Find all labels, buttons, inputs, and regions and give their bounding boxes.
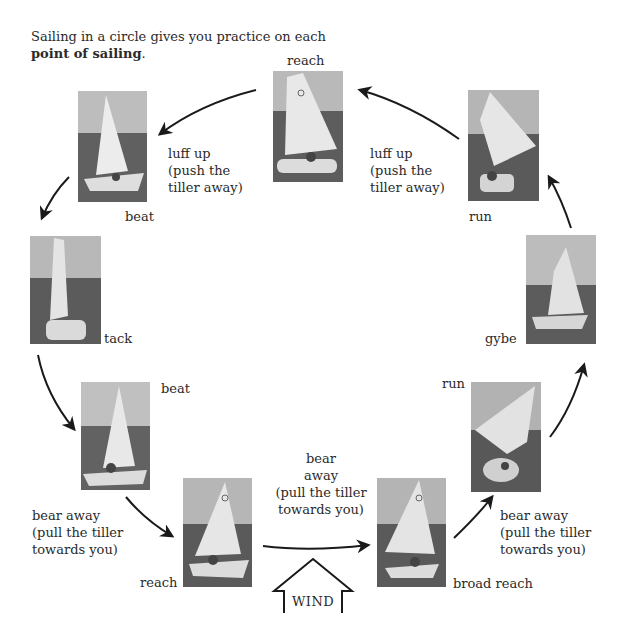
sailboat-icon [81,382,150,490]
sailboat-icon [471,382,541,492]
arrow-reach-to-broad-reach [263,545,368,549]
label-broad-reach: broad reach [453,575,533,592]
note-luff-up-right: luff up (push the tiller away) [370,145,445,196]
label-tack: tack [104,330,132,347]
photo-run-right [471,382,541,492]
label-run-top-right: run [469,208,492,225]
sailboat-icon [78,91,147,202]
note-bear-away-left: bear away (pull the tiller towards you) [32,507,123,558]
sailboat-icon [183,478,252,587]
intro-text-end: . [142,46,146,61]
photo-run-top-right [468,90,539,201]
label-reach-bottom: reach [140,574,177,591]
arrow-run-to-gybe [550,365,584,437]
arrow-beat-to-reach [126,497,172,536]
arrow-gybe-to-run [549,177,571,228]
photo-gybe [526,235,596,344]
sailboat-icon [526,235,596,344]
sailboat-icon [273,71,343,182]
intro-text-regular: Sailing in a circle gives you practice o… [31,29,326,44]
label-gybe: gybe [485,330,517,347]
intro-text: Sailing in a circle gives you practice o… [31,28,331,62]
photo-beat-left [81,382,150,490]
photo-beat-top-left [78,91,147,202]
label-beat-left: beat [161,380,190,397]
label-run-right: run [442,375,465,392]
sailboat-icon [468,90,539,201]
arrow-reach-to-beat [160,90,256,134]
photo-broad-reach [377,478,446,587]
wind-label: WIND [292,594,334,609]
note-bear-away-right: bear away (pull the tiller towards you) [500,507,591,558]
photo-tack [30,236,101,344]
sailboat-icon [377,478,446,587]
photo-reach-bottom [183,478,252,587]
arrow-run-to-reach [360,90,459,139]
arrow-broad-reach-to-run [454,497,492,538]
label-beat-top-left: beat [125,208,154,225]
sailboat-icon [30,236,101,344]
intro-text-bold: point of sailing [31,46,142,61]
note-bear-away-center: bear away (pull the tiller towards you) [261,450,381,518]
label-reach-top: reach [287,52,324,69]
arrow-tack-to-beat [38,355,74,429]
note-luff-up-left: luff up (push the tiller away) [168,145,243,196]
photo-reach-top [273,71,343,182]
arrow-beat-to-tack [42,177,69,218]
